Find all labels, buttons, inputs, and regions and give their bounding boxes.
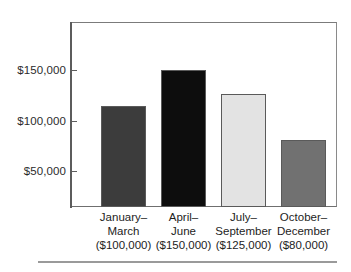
y-axis-label-50000: $50,000 [24, 165, 66, 177]
y-axis-spine [70, 22, 72, 208]
bar-chart-figure: $150,000 $100,000 $50,000 January– March… [0, 0, 351, 272]
category-line-1: October– [263, 211, 344, 225]
bar-july-september [221, 94, 266, 207]
category-value: ($80,000) [263, 239, 344, 253]
bar-october-december [281, 140, 326, 207]
y-axis-label-100000: $100,000 [17, 115, 66, 127]
y-tick-150000 [70, 70, 77, 71]
y-axis-label-150000: $150,000 [17, 64, 66, 76]
y-tick-100000 [70, 121, 77, 122]
y-tick-50000 [70, 171, 77, 172]
bar-april-june [161, 70, 206, 207]
category-label-october-december: October– December ($80,000) [263, 211, 344, 253]
category-line-2: December [263, 225, 344, 239]
bar-january-march [101, 106, 146, 207]
bottom-divider-rule [38, 261, 337, 263]
